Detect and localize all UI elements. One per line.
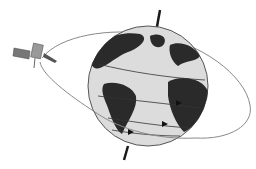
- satellite-icon: [13, 43, 57, 68]
- rotation-axis-bottom: [124, 146, 128, 160]
- diagram-svg: [0, 0, 256, 169]
- earth-globe-icon: [88, 26, 208, 146]
- satellite-orbit-diagram: [0, 0, 256, 169]
